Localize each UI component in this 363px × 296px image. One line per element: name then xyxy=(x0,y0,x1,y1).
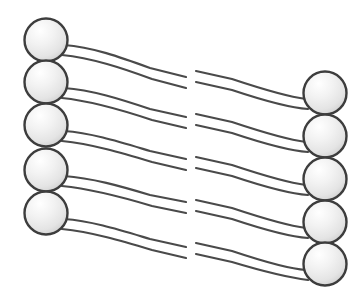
right-head-2 xyxy=(304,115,347,158)
left-head-2 xyxy=(25,61,68,104)
lipid-bilayer-diagram xyxy=(0,0,363,296)
left-head-1 xyxy=(25,19,68,62)
left-leaflet-heads xyxy=(25,19,68,235)
left-head-4 xyxy=(25,149,68,192)
left-head-5 xyxy=(25,192,68,235)
diagram-canvas xyxy=(0,0,363,296)
right-head-5 xyxy=(304,243,347,286)
right-head-4 xyxy=(304,201,347,244)
right-leaflet-heads xyxy=(304,72,347,286)
right-head-3 xyxy=(304,158,347,201)
left-head-3 xyxy=(25,104,68,147)
right-head-1 xyxy=(304,72,347,115)
